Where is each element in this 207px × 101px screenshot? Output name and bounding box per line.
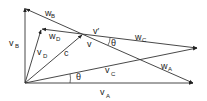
svg-text:v: v [9, 38, 14, 48]
svg-text:w: w [48, 31, 56, 41]
angle-arc-lower [70, 74, 71, 83]
label-vb: vB [9, 38, 19, 49]
label-wd: wD [48, 31, 61, 42]
svg-text:v: v [100, 87, 105, 97]
angle-arc-upper [108, 38, 110, 45]
svg-text:w: w [160, 61, 168, 71]
svg-text:w: w [134, 32, 142, 42]
label-v-prime: v′ [93, 26, 100, 36]
svg-text:v: v [105, 65, 110, 75]
label-theta-lower: θ [76, 72, 81, 82]
svg-text:C: C [111, 71, 116, 77]
label-wa: wA [160, 61, 172, 72]
svg-text:A: A [168, 66, 172, 72]
svg-text:v: v [37, 47, 42, 57]
svg-text:A: A [106, 93, 110, 99]
svg-text:D: D [56, 36, 61, 42]
label-c: c [64, 48, 69, 58]
svg-text:B: B [51, 13, 55, 19]
label-wb: wB [44, 8, 55, 19]
label-vd: vD [37, 47, 48, 59]
label-v: v [87, 39, 92, 49]
svg-text:C: C [142, 37, 147, 43]
label-theta-upper: θ [111, 38, 116, 48]
vector-diagram: wB vB wD vD c v v′ θ wC wA vC θ vA [0, 0, 207, 101]
label-va: vA [100, 87, 110, 99]
svg-text:D: D [43, 53, 48, 59]
svg-text:B: B [15, 43, 19, 49]
label-wc: wC [134, 32, 147, 43]
vector-c [25, 35, 82, 83]
label-vc: vC [105, 65, 116, 77]
